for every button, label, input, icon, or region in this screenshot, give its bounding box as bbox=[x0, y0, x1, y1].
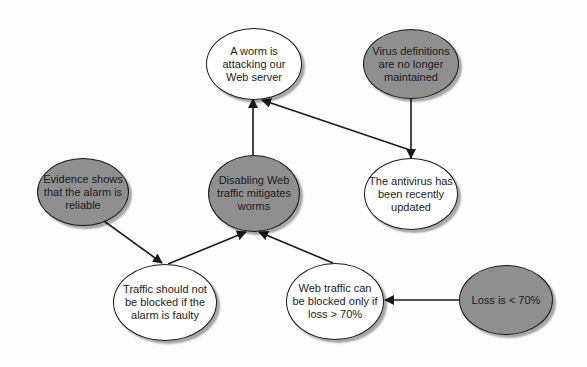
node-loss-label: Loss is < 70% bbox=[468, 294, 545, 307]
node-disabling: Disabling Web traffic mitigates worms bbox=[208, 155, 300, 232]
node-disabling-label: Disabling Web traffic mitigates worms bbox=[209, 174, 299, 213]
edge-traffic-to-disabling bbox=[168, 232, 246, 264]
node-loss: Loss is < 70% bbox=[459, 265, 553, 335]
node-virus: Virus definitions are no longer maintain… bbox=[363, 29, 459, 99]
node-webtraffic: Web traffic can be blocked only if loss … bbox=[286, 263, 384, 340]
node-worm: A worm is attacking our Web server bbox=[206, 28, 302, 100]
argument-diagram: A worm is attacking our Web server Virus… bbox=[0, 0, 587, 367]
node-webtraffic-label: Web traffic can be blocked only if loss … bbox=[287, 282, 383, 321]
node-evidence: Evidence shows that the alarm is reliabl… bbox=[37, 158, 129, 226]
node-antivirus-label: The antivirus has been recently updated bbox=[365, 175, 457, 214]
node-worm-label: A worm is attacking our Web server bbox=[207, 45, 301, 84]
node-traffic: Traffic should not be blocked if the ala… bbox=[113, 264, 217, 341]
edge-webtraffic-to-disabling bbox=[259, 232, 333, 263]
edge-antivirus-to-worm bbox=[262, 100, 410, 150]
node-traffic-label: Traffic should not be blocked if the ala… bbox=[114, 283, 216, 322]
node-evidence-label: Evidence shows that the alarm is reliabl… bbox=[38, 173, 128, 212]
node-virus-label: Virus definitions are no longer maintain… bbox=[364, 45, 458, 84]
node-antivirus: The antivirus has been recently updated bbox=[364, 158, 458, 230]
